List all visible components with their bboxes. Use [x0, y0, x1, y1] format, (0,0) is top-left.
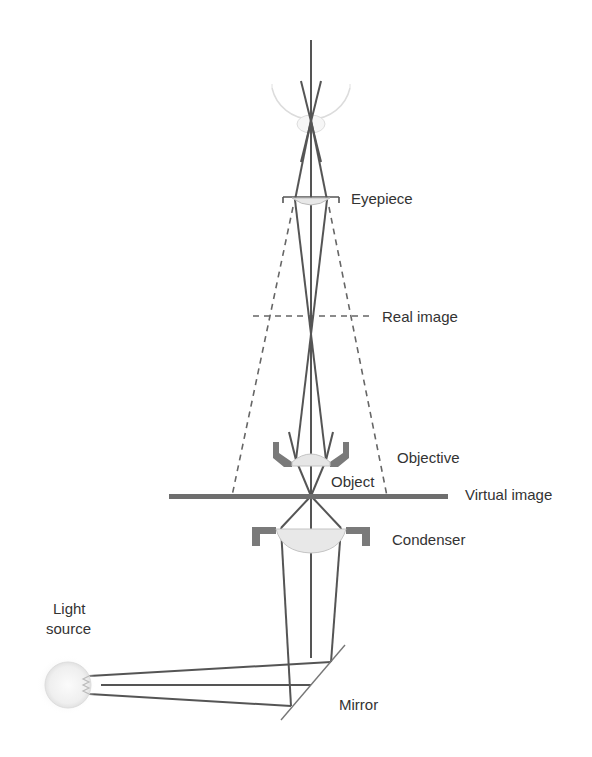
condenser-lens — [252, 527, 370, 553]
label-light-source-line1: Light — [53, 600, 86, 617]
label-eyepiece: Eyepiece — [351, 190, 413, 207]
label-virtual-image: Virtual image — [465, 486, 552, 503]
label-objective: Objective — [397, 449, 460, 466]
light-rays — [89, 40, 341, 706]
label-mirror: Mirror — [339, 696, 378, 713]
label-light-source-line2: source — [46, 620, 91, 637]
label-condenser: Condenser — [392, 531, 465, 548]
label-object: Object — [331, 473, 375, 490]
microscope-ray-diagram: Eyepiece Real image Objective Object Vir… — [0, 0, 592, 757]
eyepiece-lens — [283, 197, 339, 205]
stage-plane — [169, 494, 448, 499]
label-real-image: Real image — [382, 308, 458, 325]
light-source-bulb — [36, 655, 96, 715]
